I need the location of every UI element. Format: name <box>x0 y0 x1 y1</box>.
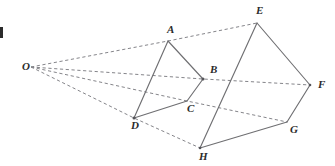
geometry-figure: O A B C D E F G H <box>0 0 335 166</box>
vertex-label-e: E <box>255 4 263 16</box>
vertex-label-f: F <box>317 78 326 90</box>
vertex-label-h: H <box>198 150 208 162</box>
dashed-ray-group <box>31 23 310 148</box>
edge-h-e <box>200 23 257 148</box>
edge-c-d <box>134 101 187 118</box>
vertex-dot-h <box>199 147 202 150</box>
vertex-dot-b <box>202 78 205 81</box>
vertex-dot-d <box>133 117 136 120</box>
ray-o-a-e <box>31 23 257 67</box>
edge-f-g <box>287 85 310 122</box>
edge-g-h <box>200 122 287 148</box>
vertex-label-d: D <box>130 119 139 131</box>
ray-o-d-h <box>31 67 200 148</box>
vertex-label-o: O <box>22 60 30 72</box>
vertex-dot-f <box>309 84 312 87</box>
edge-e-f <box>257 23 310 85</box>
vertex-dot-group <box>133 78 312 150</box>
vertex-label-g: G <box>290 123 298 135</box>
edge-d-a <box>134 41 168 118</box>
vertex-label-a: A <box>166 23 174 35</box>
ray-o-c-g <box>31 67 287 122</box>
projection-diagram-canvas: O A B C D E F G H <box>0 0 335 166</box>
edge-b-c <box>187 79 203 101</box>
left-edge-text-fragment <box>0 27 3 38</box>
vertex-label-c: C <box>187 102 195 114</box>
edge-a-b <box>168 41 203 79</box>
vertex-label-b: B <box>209 63 217 75</box>
